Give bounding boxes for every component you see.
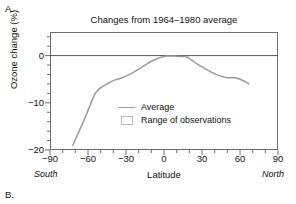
- x-tick-label: −30: [106, 153, 146, 164]
- chart-legend: Average Range of observations: [118, 101, 231, 127]
- x-tick-label: 90: [258, 153, 296, 164]
- legend-label-range: Range of observations: [141, 115, 231, 126]
- x-tick-label: 60: [220, 153, 260, 164]
- south-pole-label: South: [34, 169, 58, 179]
- legend-box-swatch-icon: [118, 115, 135, 126]
- legend-entry-range: Range of observations: [118, 114, 231, 127]
- x-axis-title: Latitude: [50, 169, 278, 180]
- x-tick-label: −60: [68, 153, 108, 164]
- x-tick-label: −90: [30, 153, 70, 164]
- legend-label-average: Average: [141, 102, 174, 113]
- panel-b-label: B.: [5, 189, 14, 200]
- x-tick-label: 0: [144, 153, 184, 164]
- legend-entry-average: Average: [118, 101, 231, 114]
- x-axis-tick-labels: −90−60−300306090: [0, 0, 296, 186]
- ozone-latitude-chart: Changes from 1964–1980 average 0−10−20 O…: [0, 0, 296, 186]
- north-pole-label: North: [262, 169, 284, 179]
- legend-line-swatch-icon: [118, 102, 135, 113]
- x-tick-label: 30: [182, 153, 222, 164]
